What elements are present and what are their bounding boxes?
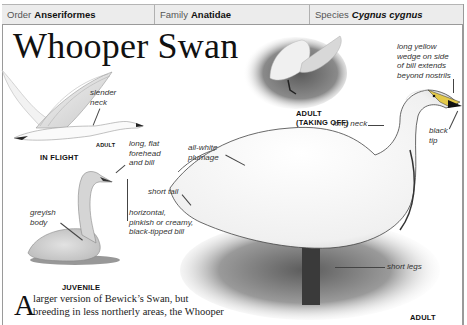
caption-in-flight: IN FLIGHT	[40, 153, 78, 162]
leader-line	[335, 267, 385, 268]
caption-juvenile: JUVENILE	[62, 283, 100, 292]
family-cell: Family Anatidae	[155, 5, 310, 24]
label-text: black-tipped bill	[129, 227, 184, 236]
label-greyish-body: greyish body	[30, 208, 56, 227]
label-text: slender	[90, 88, 116, 97]
taxonomy-header: Order Anseriformes Family Anatidae Speci…	[2, 4, 463, 25]
label-text: beyond nostrils	[397, 71, 451, 80]
caption-adult-flight: ADULT	[96, 141, 115, 150]
label-text: body	[30, 218, 47, 227]
label-text: long, flat	[129, 139, 159, 148]
label-juvenile-bill: horizontal, pinkish or creamy, black-tip…	[129, 208, 193, 237]
species-description: A larger version of Bewick’s Swan, but b…	[18, 293, 318, 318]
label-short-legs: short legs	[387, 262, 422, 272]
order-cell: Order Anseriformes	[2, 5, 155, 24]
label-text: and bill	[129, 158, 154, 167]
label-long-neck: long neck	[333, 119, 367, 129]
leader-line	[453, 79, 454, 93]
page-border-right	[462, 4, 464, 325]
label-text: wedge on side	[397, 52, 449, 61]
label-text: horizontal,	[129, 208, 166, 217]
caption-line: ADULT	[296, 109, 322, 118]
order-value: Anseriformes	[34, 9, 95, 20]
label-slender-neck: slender neck	[90, 88, 116, 107]
species-label: Species	[315, 9, 349, 20]
label-text: of bill extends	[397, 61, 446, 70]
caption-adult: ADULT	[410, 313, 436, 322]
swan-in-flight-illustration	[0, 60, 150, 140]
species-cell: Species Cygnus cygnus	[310, 5, 463, 24]
family-label: Family	[160, 9, 188, 20]
label-text: forehead	[129, 149, 161, 158]
description-line: larger version of Bewick’s Swan, but	[18, 293, 318, 306]
label-yellow-wedge: long yellow wedge on side of bill extend…	[397, 42, 451, 80]
label-text: tip	[429, 136, 437, 145]
label-text: plumage	[188, 153, 219, 162]
description-line: breeding in less northerly areas, the Wh…	[18, 306, 318, 319]
label-text: greyish	[30, 208, 56, 217]
label-text: black	[429, 126, 448, 135]
leader-line	[368, 125, 384, 126]
label-text: long yellow	[397, 42, 437, 51]
leader-line	[127, 179, 128, 221]
label-black-tip: black tip	[429, 126, 448, 145]
label-text: all-white	[188, 143, 217, 152]
label-short-tail: short tail	[148, 187, 178, 197]
label-all-white-plumage: all-white plumage	[188, 143, 219, 162]
label-text: pinkish or creamy,	[129, 218, 193, 227]
species-value: Cygnus cygnus	[352, 9, 423, 20]
family-value: Anatidae	[191, 9, 231, 20]
drop-cap: A	[14, 292, 35, 318]
field-guide-page: Order Anseriformes Family Anatidae Speci…	[0, 0, 467, 325]
page-border-left	[2, 4, 3, 325]
label-forehead: long, flat forehead and bill	[129, 139, 161, 168]
order-label: Order	[7, 9, 31, 20]
label-text: neck	[90, 98, 107, 107]
